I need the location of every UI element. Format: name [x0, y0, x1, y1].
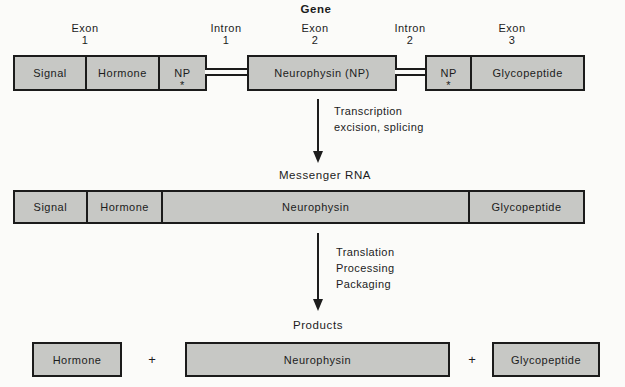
exon-1-name: Exon: [71, 22, 98, 34]
intron-1-connector: [205, 68, 249, 76]
mrna-segment-signal-label: Signal: [34, 201, 68, 213]
mrna-segment-neurophysin: Neurophysin: [161, 192, 468, 222]
intron-1-label: Intron 1: [210, 22, 241, 46]
mrna-row: Signal Hormone Neurophysin Glycopeptide: [13, 190, 585, 224]
mrna-segment-hormone: Hormone: [86, 192, 162, 222]
gene-segment-np1: NP *: [158, 57, 205, 89]
products-title: Products: [293, 319, 343, 331]
gene-segment-neurophysin-label: Neurophysin (NP): [274, 67, 369, 79]
np1-asterisk-marker: *: [180, 80, 185, 90]
intron-2-label: Intron 2: [394, 22, 425, 46]
translation-step-label: Translation Processing Packaging: [336, 244, 394, 292]
gene-segment-np1-label: NP: [174, 67, 190, 79]
gene-segment-np2: NP *: [427, 57, 470, 89]
product-glycopeptide-label: Glycopeptide: [511, 354, 581, 366]
gene-segment-glycopeptide-label: Glycopeptide: [493, 67, 563, 79]
plus-sign-1: +: [148, 352, 156, 367]
gene-expression-diagram: Gene Exon 1 Intron 1 Exon 2 Intron 2 Exo…: [0, 0, 625, 387]
transcription-arrow-head: [313, 151, 323, 163]
gene-title: Gene: [300, 3, 331, 15]
gene-exon2-group: Neurophysin (NP): [247, 55, 397, 91]
intron-2-connector: [395, 68, 427, 76]
intron-1-name: Intron: [210, 22, 241, 34]
gene-exon1-group: Signal Hormone NP *: [13, 55, 207, 91]
exon-3-label: Exon 3: [498, 22, 525, 46]
product-neurophysin-label: Neurophysin: [284, 354, 351, 366]
transcription-step-line1: Transcription: [334, 104, 424, 120]
exon-2-name: Exon: [301, 22, 328, 34]
gene-exon3-group: NP * Glycopeptide: [425, 55, 585, 91]
intron-2-name: Intron: [394, 22, 425, 34]
translation-arrow-head: [313, 299, 323, 311]
gene-segment-np2-label: NP: [441, 67, 457, 79]
gene-segment-signal: Signal: [15, 57, 85, 89]
product-neurophysin: Neurophysin: [187, 344, 448, 375]
exon-3-name: Exon: [498, 22, 525, 34]
mrna-segment-signal: Signal: [15, 192, 86, 222]
mrna-segment-glycopeptide: Glycopeptide: [468, 192, 583, 222]
gene-segment-signal-label: Signal: [33, 67, 67, 79]
exon-1-label: Exon 1: [71, 22, 98, 46]
mrna-segment-hormone-label: Hormone: [100, 201, 149, 213]
mrna-segment-glycopeptide-label: Glycopeptide: [491, 201, 561, 213]
product-neurophysin-box: Neurophysin: [185, 342, 450, 377]
translation-arrow-line: [317, 233, 319, 300]
product-hormone: Hormone: [34, 344, 120, 375]
translation-step-line1: Translation: [336, 244, 394, 260]
mrna-title: Messenger RNA: [279, 169, 371, 181]
gene-segment-hormone-label: Hormone: [98, 67, 147, 79]
transcription-step-line2: excision, splicing: [334, 120, 424, 136]
translation-step-line3: Packaging: [336, 276, 394, 292]
plus-sign-2: +: [468, 352, 476, 367]
gene-segment-neurophysin: Neurophysin (NP): [249, 57, 395, 89]
product-hormone-label: Hormone: [53, 354, 102, 366]
np2-asterisk-marker: *: [446, 80, 451, 90]
product-glycopeptide: Glycopeptide: [494, 344, 598, 375]
intron-1-number: 1: [210, 34, 241, 46]
exon-2-number: 2: [301, 34, 328, 46]
gene-segment-glycopeptide: Glycopeptide: [470, 57, 583, 89]
transcription-arrow-line: [317, 99, 319, 153]
gene-segment-hormone: Hormone: [85, 57, 158, 89]
exon-3-number: 3: [498, 34, 525, 46]
mrna-segment-neurophysin-label: Neurophysin: [282, 201, 349, 213]
translation-step-line2: Processing: [336, 260, 394, 276]
intron-2-number: 2: [394, 34, 425, 46]
transcription-step-label: Transcription excision, splicing: [334, 104, 424, 135]
product-glycopeptide-box: Glycopeptide: [492, 342, 600, 377]
product-hormone-box: Hormone: [32, 342, 122, 377]
exon-2-label: Exon 2: [301, 22, 328, 46]
exon-1-number: 1: [71, 34, 98, 46]
